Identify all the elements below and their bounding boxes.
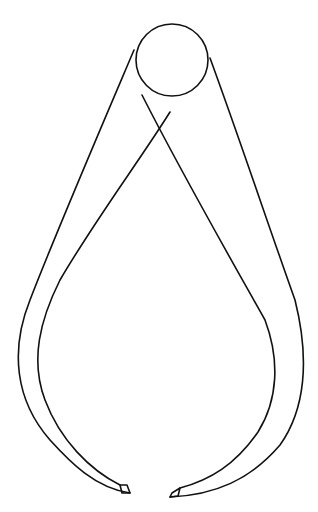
caliper-illustration bbox=[0, 0, 318, 512]
pivot-joint bbox=[136, 24, 208, 96]
caliper-drawing bbox=[0, 0, 318, 512]
left-leg bbox=[18, 50, 170, 493]
right-leg bbox=[142, 58, 303, 497]
